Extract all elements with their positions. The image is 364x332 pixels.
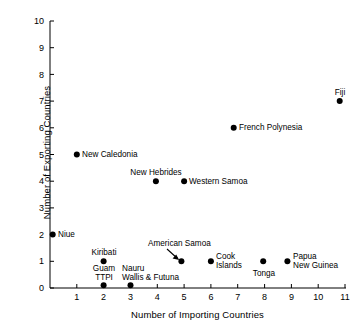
data-point-tonga[interactable] [260,258,266,264]
y-tick-label-10: 10 [19,16,44,26]
data-point-nauru-wallis-futuna[interactable] [128,282,134,288]
y-axis-title: Number of Exporting Countries [41,28,52,278]
data-point-western-samoa[interactable] [181,178,187,184]
point-label-wallis-futuna: Wallis & Futuna [122,273,179,282]
point-label-islands: Islands [216,261,242,270]
data-point-french-polynesia[interactable] [231,125,237,131]
point-label-ttpi: TTPI [84,273,124,282]
point-label-new-caledonia: New Caledonia [82,150,138,159]
x-tick-marks [77,284,345,288]
data-point-american-samoa[interactable] [178,258,184,264]
point-label-tonga: Tonga [245,269,283,278]
x-tick-label-11: 11 [335,292,355,302]
point-label-kiribati: Kiribati [84,248,124,257]
american-samoa-arrow-icon [167,249,179,260]
x-tick-label-9: 9 [281,292,301,302]
x-tick-label-6: 6 [201,292,221,302]
x-tick-label-2: 2 [94,292,114,302]
point-label-guam: Guam [84,264,124,273]
data-point-new-hebrides[interactable] [153,178,159,184]
point-label-papua: Papua [293,252,317,261]
point-label-western-samoa: Western Samoa [189,177,248,186]
data-point-new-caledonia[interactable] [74,152,80,158]
point-label-french-polynesia: French Polynesia [239,123,302,132]
plot-area [0,0,364,332]
x-tick-label-4: 4 [147,292,167,302]
point-label-fiji: Fiji [327,88,353,97]
x-tick-label-5: 5 [174,292,194,302]
x-tick-label-8: 8 [255,292,275,302]
data-point-cook-islands[interactable] [208,258,214,264]
data-point-papua-new-guinea[interactable] [284,258,290,264]
x-tick-label-7: 7 [228,292,248,302]
x-tick-label-3: 3 [121,292,141,302]
x-tick-label-1: 1 [67,292,87,302]
y-tick-label-0: 0 [24,283,44,293]
data-point-fiji[interactable] [337,98,343,104]
point-label-new-hebrides: New Hebrides [124,168,188,177]
x-axis-title: Number of Importing Countries [50,309,345,320]
point-label-new-guinea: New Guinea [293,261,338,270]
scatter-chart: 0 1 2 3 4 5 6 7 8 9 10 1 2 3 4 5 6 7 8 9… [0,0,364,332]
point-label-nauru: Nauru [122,264,144,273]
point-label-niue: Niue [58,230,75,239]
point-label-cook: Cook [216,252,235,261]
point-label-american-samoa: American Samoa [148,239,211,248]
data-point-guam-ttpi[interactable] [101,282,107,288]
x-tick-label-10: 10 [308,292,328,302]
